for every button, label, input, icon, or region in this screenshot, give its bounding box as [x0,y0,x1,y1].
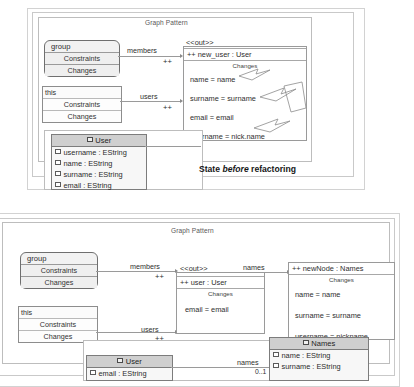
bottom-edge-names-label: names [243,263,265,272]
bottom-out-node-changes-label: Changes [177,289,264,299]
bottom-names-class[interactable]: Names name : EString surname : EString [269,337,369,381]
bottom-this-title: this [19,307,97,318]
attribute-icon [55,182,61,188]
top-user-attr-0: username : EString [52,147,146,158]
top-edge-members-plus: ++ [163,57,172,66]
top-user-class-link [145,146,201,147]
top-out-node-name: ++ new_user : User [184,48,306,61]
top-group-node[interactable]: group Constraints Changes [44,40,120,77]
top-group-constraints: Constraints [45,52,119,64]
bottom-group-changes: Changes [21,276,97,288]
bottom-user-attr-0: email : EString [87,368,172,379]
bottom-edge-users-label: users [141,325,159,334]
bottom-out-node-assignment-0: email = email [177,305,264,315]
top-this-node[interactable]: this Constraints Changes [42,86,122,123]
top-user-attr-2: surname : EString [52,169,146,180]
bottom-new-node-assignment-0: name = name [289,290,394,300]
top-out-node-changes-label: Changes [184,61,306,71]
caption-before: State before refactoring [199,164,296,174]
top-this-title: this [43,87,121,98]
bottom-this-node[interactable]: this Constraints Changes [18,306,98,343]
attribute-icon [55,149,61,155]
top-out-node-assignment-1: surname = surname [184,94,306,104]
bottom-new-node-changes-label: Changes [289,275,394,285]
top-edge-users-plus: ++ [163,103,172,112]
bottom-user-class-header: User [87,356,172,368]
bottom-edge-members-label: members [130,262,160,271]
bottom-this-constraints: Constraints [19,318,97,330]
top-out-node[interactable]: <<out>> ++ new_user : User Changes name … [183,46,307,141]
bottom-new-node[interactable]: ++ newNode : Names Changes name = name s… [288,262,395,340]
bottom-group-title: group [21,253,97,264]
bottom-edge-members-plus: ++ [155,272,164,281]
bottom-names-attr-0: name : EString [270,350,368,361]
top-this-constraints: Constraints [43,98,121,110]
class-icon [87,137,93,143]
top-group-changes: Changes [45,64,119,76]
attribute-icon [90,370,96,376]
bottom-association-multiplicity: 0..1 [255,368,266,375]
attribute-icon [55,160,61,166]
bottom-out-node-stereotype: <<out>> [178,264,208,274]
bottom-out-node-name: ++ user : User [177,276,264,289]
bottom-group-node[interactable]: group Constraints Changes [20,252,98,289]
bottom-new-node-assignment-1: surname = surname [289,311,394,321]
top-group-title: group [45,41,119,52]
top-graph-pattern-label: Graph Pattern [145,19,188,26]
top-edge-users [120,101,181,102]
class-icon [303,340,309,346]
bottom-edge-users [96,332,176,333]
top-user-attr-3: email : EString [52,180,146,191]
bottom-new-node-name: ++ newNode : Names [289,263,394,275]
top-user-class[interactable]: User username : EString name : EString s… [51,134,147,190]
attribute-icon [273,363,279,369]
attribute-icon [55,171,61,177]
top-user-class-header: User [52,135,146,147]
top-user-class-name: User [95,136,111,145]
bottom-user-class[interactable]: User email : EString [86,355,173,381]
bottom-group-constraints: Constraints [21,264,97,276]
bottom-association-label: names [237,358,259,367]
bottom-user-class-name: User [126,357,142,366]
bottom-names-attr-1: surname : EString [270,361,368,372]
top-user-attr-1: name : EString [52,158,146,169]
top-this-changes: Changes [43,110,121,122]
bottom-graph-pattern-label: Graph Pattern [171,227,214,234]
attribute-icon [273,352,279,358]
top-edge-users-label: users [140,92,158,101]
bottom-edge-members [96,271,176,272]
bottom-names-class-name: Names [311,339,335,348]
top-edge-members-label: members [127,46,157,55]
top-out-node-assignment-2: email = email [184,113,306,123]
bottom-out-node[interactable]: <<out>> ++ user : User Changes email = e… [176,272,265,334]
top-out-node-assignment-0: name = name [184,75,306,85]
top-out-node-stereotype: <<out>> [184,38,214,48]
class-icon [117,358,123,364]
bottom-names-class-header: Names [270,338,368,350]
